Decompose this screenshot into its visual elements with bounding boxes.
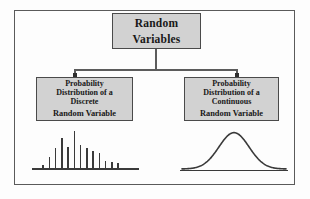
- node-continuous-random-variable[interactable]: Probability Distribution of a Continuous…: [184, 77, 279, 121]
- node-continuous-line-3: Continuous: [212, 97, 252, 106]
- node-discrete-random-variable[interactable]: Probability Distribution of a Discrete R…: [36, 77, 133, 121]
- node-discrete-line-3: Discrete: [71, 97, 99, 106]
- node-discrete-line-2: Distribution of a: [56, 88, 112, 97]
- node-continuous-line-1: Probability: [212, 79, 251, 88]
- discrete-distribution-plot: [30, 126, 142, 174]
- node-random-variables[interactable]: Random Variables: [112, 13, 201, 49]
- connector-root-stem: [155, 49, 157, 70]
- node-random-variables-line-1: Random: [135, 16, 178, 31]
- continuous-distribution-plot: [178, 126, 290, 174]
- connector-horizontal-bar: [74, 69, 238, 71]
- node-continuous-line-2: Distribution of a: [203, 88, 259, 97]
- discrete-distribution-svg: [30, 126, 142, 174]
- node-discrete-line-1: Probability: [65, 79, 104, 88]
- diagram-canvas: Random Variables Probability Distributio…: [0, 0, 310, 199]
- bell-curve-path: [182, 133, 286, 169]
- continuous-distribution-svg: [178, 126, 290, 174]
- node-discrete-emphasis: Random Variable: [53, 110, 116, 119]
- node-random-variables-line-2: Variables: [132, 31, 180, 46]
- node-continuous-emphasis: Random Variable: [200, 110, 263, 119]
